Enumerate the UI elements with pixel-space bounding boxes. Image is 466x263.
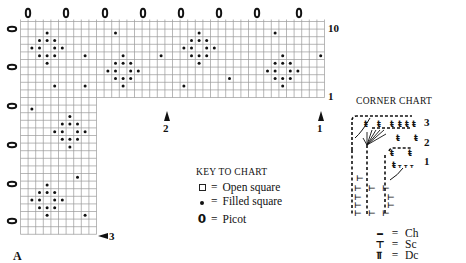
key-label: Picot [223, 212, 247, 226]
key-to-chart: KEY TO CHART = Open square = Filled squa… [196, 165, 282, 226]
arrow-2-label: 2 [163, 123, 169, 134]
svg-text:⊢: ⊢ [368, 209, 375, 218]
svg-text:ŧ: ŧ [408, 149, 412, 158]
chain-icon: ▬ [375, 228, 385, 239]
stitch-label: Dc [405, 250, 418, 261]
svg-text:ᵀ: ᵀ [410, 164, 414, 173]
arrow-marker-2 [164, 111, 170, 121]
key-item-open-square: = Open square [196, 180, 282, 194]
stitch-key: ▬ = Ch ⊤ = Sc ⫪ = Dc [375, 228, 418, 261]
arrow-marker-3 [98, 233, 108, 239]
svg-text:⊢: ⊢ [382, 184, 389, 193]
arrow-3-label: 3 [109, 231, 115, 242]
svg-text:ŧ: ŧ [396, 134, 400, 143]
svg-text:ŧ: ŧ [405, 120, 409, 129]
key-label: Filled square [223, 194, 283, 208]
svg-text:ŧ: ŧ [377, 120, 381, 129]
double-crochet-icon: ⫪ [375, 250, 385, 261]
key-eq: = [211, 180, 218, 194]
figure-label: A [13, 250, 22, 262]
row-10-label: 10 [328, 23, 339, 34]
svg-text:⊢: ⊢ [382, 209, 389, 218]
svg-text:ŧ: ŧ [390, 120, 394, 129]
svg-text:ŧ: ŧ [398, 120, 402, 129]
svg-text:ŧ: ŧ [390, 149, 394, 158]
key-label: Open square [223, 180, 281, 194]
stitch-key-dc: ⫪ = Dc [375, 250, 418, 261]
key-eq: = [211, 194, 218, 208]
corner-row-3-label: 3 [424, 117, 430, 128]
svg-text:ŧ: ŧ [364, 120, 368, 129]
svg-text:ŧ: ŧ [392, 161, 396, 170]
arrow-1-label: 1 [317, 123, 323, 134]
key-item-filled-square: = Filled square [196, 194, 282, 208]
corner-stitch-symbols: ŧŧŧŧ ŧŧ ŧŧ ŧŧ ŧ ᵀᵀᵀ ⊢ ⊢⊢⊢ ⊢⊢ ⊢⊢ ⊢⊢⊢ [354, 120, 418, 218]
key-item-picot: 0 = Picot [196, 212, 282, 226]
svg-text:⊢: ⊢ [354, 209, 361, 218]
single-crochet-icon: ⊤ [375, 239, 385, 250]
filled-square-dot-icon [200, 201, 204, 205]
svg-text:⊢: ⊢ [354, 184, 361, 193]
svg-text:ŧ: ŧ [414, 134, 418, 143]
open-square-icon [199, 184, 206, 191]
corner-chart-title: CORNER CHART [356, 96, 432, 106]
svg-text:ŧ: ŧ [412, 120, 416, 129]
key-eq: = [211, 212, 218, 226]
svg-text:⊢: ⊢ [356, 174, 363, 183]
stitch-eq: = [385, 250, 405, 261]
arrow-marker-1 [318, 111, 324, 121]
svg-text:ᵀ: ᵀ [404, 164, 408, 173]
row-1-label: 1 [328, 91, 334, 102]
corner-row-1-label: 1 [424, 156, 430, 167]
corner-row-2-label: 2 [424, 137, 430, 148]
picot-icon: 0 [196, 212, 208, 226]
key-title: KEY TO CHART [196, 165, 282, 179]
svg-text:ᵀ: ᵀ [398, 164, 402, 173]
svg-text:⊢: ⊢ [368, 184, 375, 193]
